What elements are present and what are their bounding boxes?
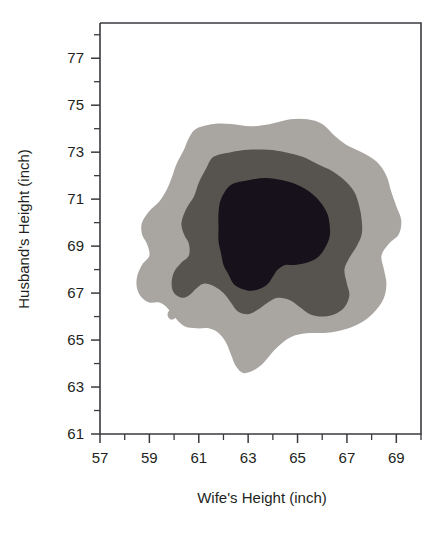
x-axis-tick-labels-group: 57596163656769 [92,449,405,466]
contour-plot-figure: 57596163656769 616365676971737577 Wife's… [0,0,443,534]
x-tick-label-57: 57 [92,449,109,466]
y-tick-label-69: 69 [67,237,84,254]
y-tick-label-63: 63 [67,378,84,395]
y-tick-label-77: 77 [67,49,84,66]
y-tick-label-75: 75 [67,96,84,113]
y-tick-label-71: 71 [67,190,84,207]
contour-plot-svg: 57596163656769 616365676971737577 Wife's… [0,0,443,534]
x-axis-ticks-group [100,434,421,443]
y-axis-title: Husband's Height (inch) [15,149,32,309]
y-axis-ticks-group [91,35,100,434]
x-tick-label-65: 65 [289,449,306,466]
y-tick-label-67: 67 [67,284,84,301]
x-tick-label-63: 63 [240,449,257,466]
y-axis-tick-labels-group: 616365676971737577 [67,49,84,442]
x-tick-label-59: 59 [141,449,158,466]
y-tick-label-61: 61 [67,425,84,442]
y-tick-label-65: 65 [67,331,84,348]
x-tick-label-67: 67 [339,449,356,466]
x-axis-title: Wife's Height (inch) [197,489,327,506]
y-tick-label-73: 73 [67,143,84,160]
x-tick-label-69: 69 [388,449,405,466]
x-tick-label-61: 61 [190,449,207,466]
